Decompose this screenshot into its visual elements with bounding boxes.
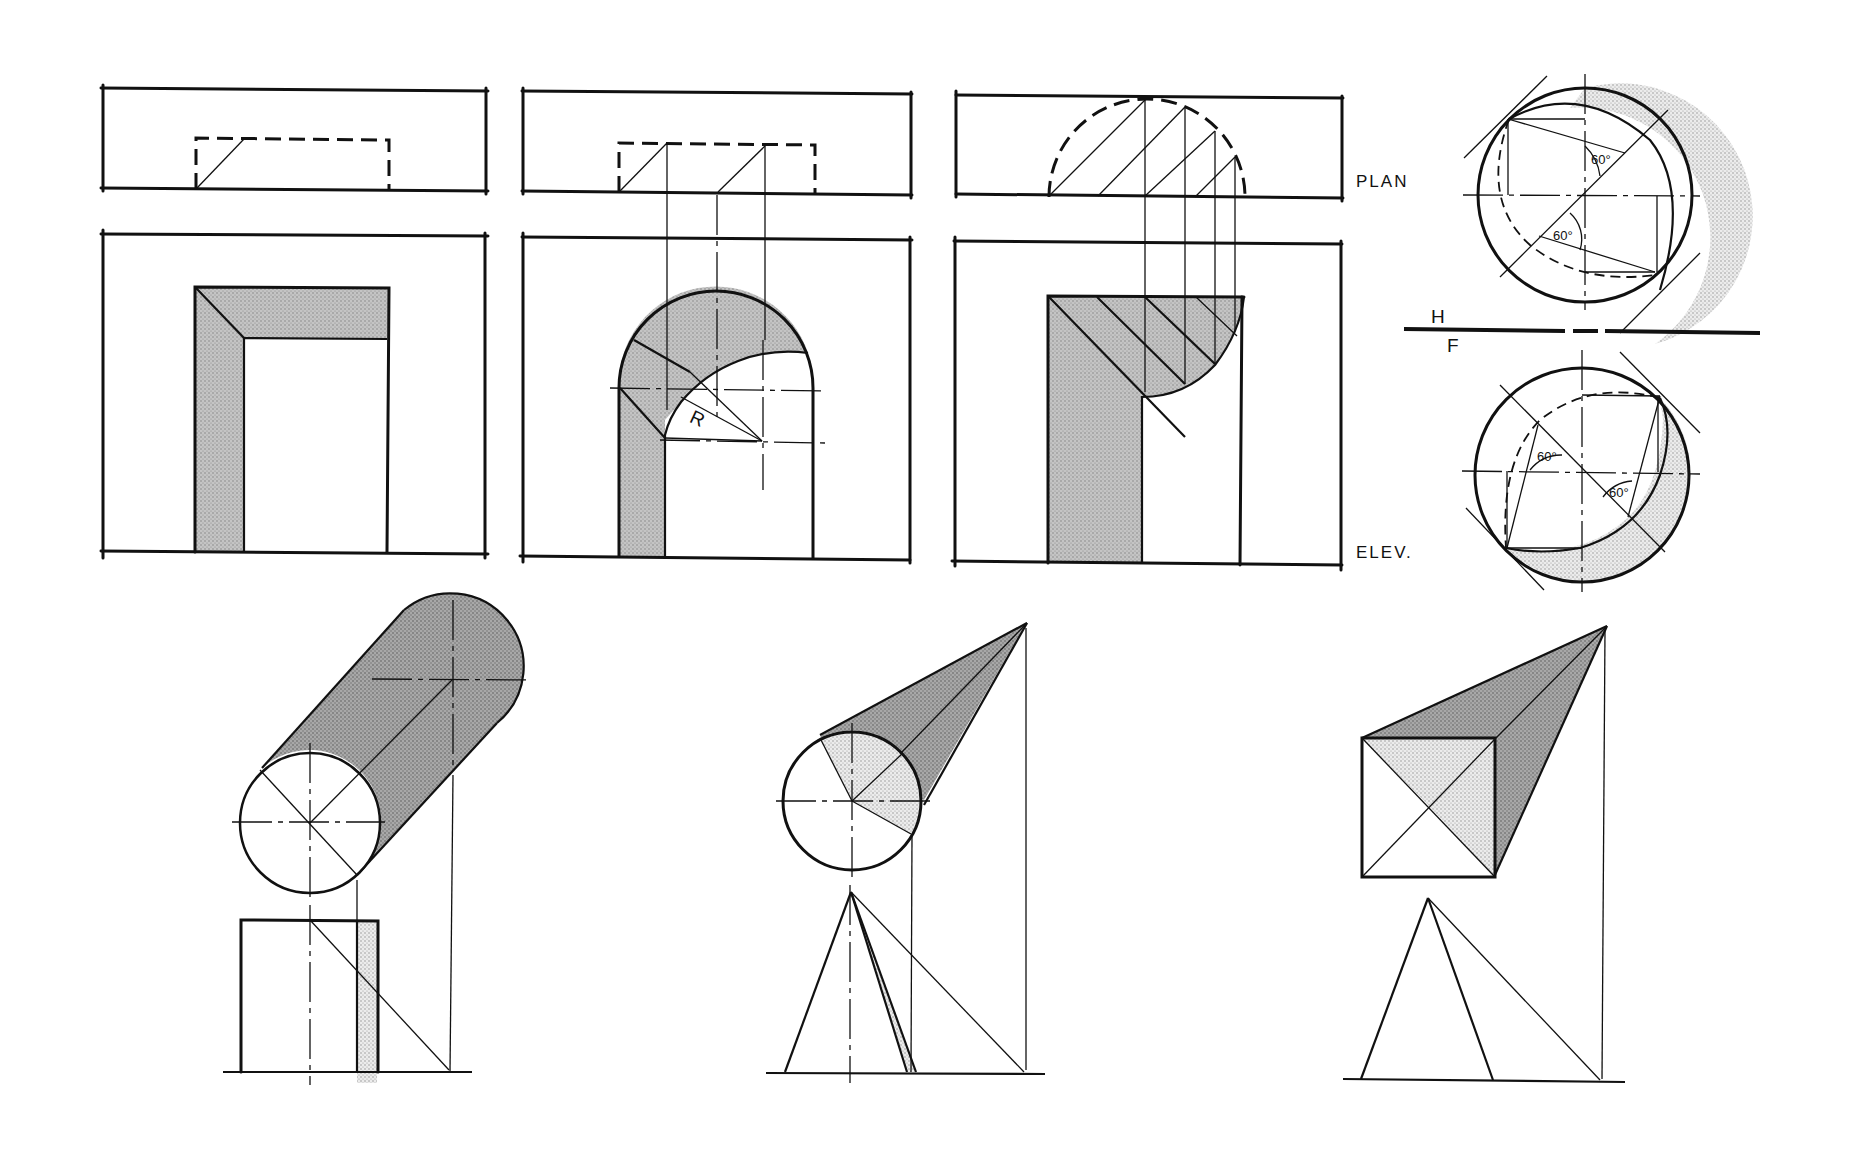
sphere-top-view: 60° 60° [1463, 74, 1753, 344]
angle-label-3: 60° [1537, 449, 1557, 464]
elev-label: ELEV. [1356, 543, 1413, 562]
angle-label-4: 60° [1609, 485, 1629, 500]
plan-label: PLAN [1356, 172, 1408, 191]
panel-cylinder [223, 593, 530, 1085]
h-label: H [1431, 306, 1445, 327]
panel-cone [766, 623, 1045, 1083]
elevation-view-3 [952, 100, 1342, 570]
angle-label-1: 60° [1591, 152, 1611, 167]
panel-arched-opening: R [520, 88, 912, 563]
drawing-sheet: R [0, 0, 1861, 1153]
cylinder-plan [232, 593, 530, 900]
plan-view-2 [522, 88, 912, 198]
radius-label: R [687, 406, 708, 431]
panel-sphere: 60° 60° H F 60° [1404, 74, 1760, 592]
elevation-view-2: R [520, 143, 912, 563]
angle-label-2: 60° [1553, 228, 1573, 243]
f-label: F [1447, 335, 1459, 356]
pyramid-plan [1362, 626, 1607, 877]
panel-rectangular-opening [101, 85, 488, 558]
panel-semicircular-niche: PLAN ELEV. [952, 91, 1413, 570]
panel-pyramid [1343, 626, 1625, 1082]
plan-view-1 [101, 85, 488, 194]
sphere-front-view: 60° 60° [1462, 350, 1700, 592]
elevation-view-1 [101, 230, 488, 558]
cone-plan [776, 623, 1027, 880]
plan-view-3 [956, 91, 1343, 201]
